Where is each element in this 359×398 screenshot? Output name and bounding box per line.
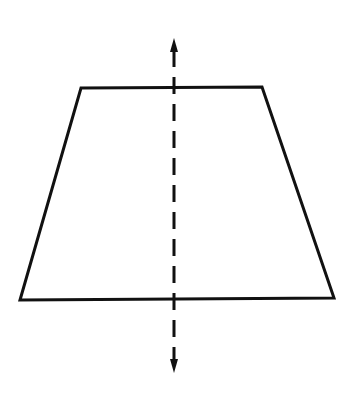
arrow-down-icon bbox=[170, 359, 178, 373]
diagram-canvas bbox=[0, 0, 359, 398]
trapezoid bbox=[20, 87, 334, 300]
arrow-up-icon bbox=[170, 38, 178, 52]
